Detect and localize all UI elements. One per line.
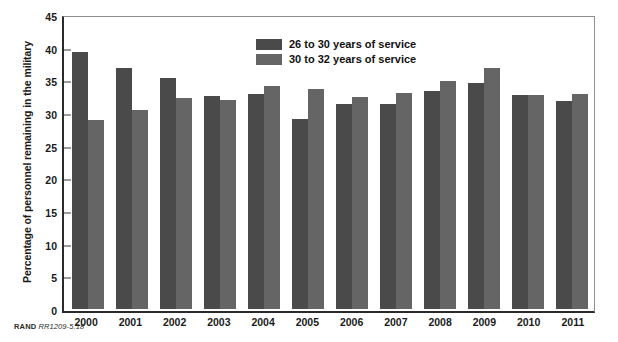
x-axis-tick-label: 2007 xyxy=(374,316,418,328)
bar xyxy=(572,94,588,309)
bar-group xyxy=(550,17,594,309)
x-axis-tick-label: 2011 xyxy=(551,316,595,328)
legend-item-label: 26 to 30 years of service xyxy=(289,38,416,50)
bar xyxy=(512,95,528,309)
x-axis-tick-label: 2005 xyxy=(285,316,329,328)
y-axis-tick-label: 10 xyxy=(45,240,64,252)
bar-group xyxy=(198,17,242,309)
bar xyxy=(264,86,280,309)
bar-group xyxy=(462,17,506,309)
bar xyxy=(72,52,88,309)
bar xyxy=(380,104,396,309)
bar xyxy=(292,119,308,309)
bar xyxy=(424,91,440,309)
x-axis-tick-label: 2001 xyxy=(108,316,152,328)
legend-swatch-icon xyxy=(256,39,282,50)
legend-item-series-0: 26 to 30 years of service xyxy=(256,38,416,50)
bar xyxy=(204,96,220,309)
legend-item-label: 30 to 32 years of service xyxy=(289,53,416,65)
credit-document-id: RR1209-5.18 xyxy=(38,322,84,331)
bar-group xyxy=(154,17,198,309)
y-axis-tick-label: 40 xyxy=(45,44,64,56)
legend-item-series-1: 30 to 32 years of service xyxy=(256,53,416,65)
y-axis-tick-label: 30 xyxy=(45,109,64,121)
y-axis-tick-label: 45 xyxy=(45,11,64,23)
y-axis-tick-label: 25 xyxy=(45,142,64,154)
y-axis-tick-label: 35 xyxy=(45,76,64,88)
figure-credit: RANDRR1209-5.18 xyxy=(14,322,84,331)
y-axis-title: Percentage of personnel remaining in the… xyxy=(18,6,36,318)
bar xyxy=(132,110,148,309)
bar-group xyxy=(418,17,462,309)
legend-swatch-icon xyxy=(256,54,282,65)
bar xyxy=(468,83,484,309)
x-axis-tick-label: 2008 xyxy=(418,316,462,328)
bar xyxy=(556,101,572,309)
bar xyxy=(396,93,412,309)
bar xyxy=(88,120,104,309)
y-axis-tick-label: 0 xyxy=(51,305,64,317)
bar-group xyxy=(66,17,110,309)
bar xyxy=(440,81,456,309)
y-axis-tick-label: 5 xyxy=(51,272,64,284)
x-axis-tick-label: 2006 xyxy=(330,316,374,328)
bar-group xyxy=(506,17,550,309)
y-axis-tick-label: 20 xyxy=(45,174,64,186)
x-axis-tick-labels: 2000200120022003200420052006200720082009… xyxy=(64,316,595,328)
chart-figure: Percentage of personnel remaining in the… xyxy=(0,0,618,342)
bar xyxy=(308,89,324,309)
x-axis-tick-label: 2009 xyxy=(462,316,506,328)
bar xyxy=(248,94,264,309)
x-axis-tick-label: 2002 xyxy=(153,316,197,328)
bar xyxy=(116,68,132,309)
x-axis-tick-label: 2003 xyxy=(197,316,241,328)
bar xyxy=(352,97,368,309)
bar xyxy=(160,78,176,309)
credit-org: RAND xyxy=(14,322,36,331)
x-axis-tick-label: 2010 xyxy=(507,316,551,328)
bar xyxy=(336,104,352,309)
y-axis-tick-label: 15 xyxy=(45,207,64,219)
x-axis-tick-label: 2004 xyxy=(241,316,285,328)
bar xyxy=(176,98,192,309)
bar xyxy=(220,100,236,309)
bar-group xyxy=(110,17,154,309)
bar xyxy=(484,68,500,309)
chart-legend: 26 to 30 years of service 30 to 32 years… xyxy=(256,38,416,65)
bar xyxy=(528,95,544,309)
